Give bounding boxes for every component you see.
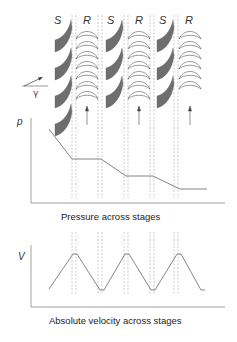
flow-arrow-icon — [38, 77, 43, 81]
pressure-plot: p Pressure across stages — [16, 116, 225, 222]
rotor-blade — [76, 42, 98, 50]
rotor-blade — [128, 32, 150, 40]
pressure-axis-label: p — [16, 116, 23, 127]
stage-boundaries — [72, 15, 178, 295]
rotor-blade — [128, 72, 150, 80]
rotor-blade — [76, 92, 98, 100]
rotor-blade — [128, 42, 150, 50]
rotor-blade — [76, 32, 98, 40]
stator-row-2 — [106, 20, 123, 108]
flow-arrow-icon — [24, 78, 41, 86]
rotor-row-3 — [179, 32, 201, 90]
rotor-label-3: R — [185, 14, 193, 26]
arrow-up-icon — [138, 106, 141, 111]
arrow-up-icon — [189, 106, 192, 111]
stator-label-1: S — [54, 14, 62, 26]
stator-blade — [157, 48, 174, 80]
rotor-row-2 — [128, 32, 150, 100]
gamma-label: γ — [33, 88, 39, 98]
stator-blade — [55, 48, 72, 80]
stator-blade — [55, 104, 72, 136]
stator-row-1 — [55, 20, 72, 136]
rotor-motion-arrows — [86, 106, 192, 125]
rotor-blade — [76, 62, 98, 70]
stator-row-3 — [157, 20, 174, 108]
stator-blade — [106, 48, 123, 80]
rotor-blade — [76, 52, 98, 60]
stator-blade — [106, 76, 123, 108]
rotor-label-2: R — [135, 14, 143, 26]
rotor-blade — [179, 42, 201, 50]
velocity-axis-label: V — [18, 251, 26, 262]
rotor-blade — [128, 82, 150, 90]
rotor-blade — [76, 72, 98, 80]
rotor-blade — [128, 62, 150, 70]
rotor-blade — [128, 52, 150, 60]
turbine-stage-diagram: S R S R S R — [0, 0, 237, 342]
rotor-blade — [179, 52, 201, 60]
velocity-caption: Absolute velocity across stages — [49, 315, 182, 326]
rotor-blade — [128, 92, 150, 100]
rotor-blade — [179, 82, 201, 90]
rotor-blade — [179, 72, 201, 80]
stator-label-2: S — [107, 14, 115, 26]
rotor-blade — [76, 82, 98, 90]
rotor-label-1: R — [83, 14, 91, 26]
pressure-caption: Pressure across stages — [61, 211, 161, 222]
stator-blade — [55, 76, 72, 108]
stator-blade — [157, 76, 174, 108]
velocity-curve — [49, 254, 205, 290]
flow-angle-indicator: γ — [22, 77, 48, 98]
rotor-blade — [179, 62, 201, 70]
rotor-blade — [179, 32, 201, 40]
stator-label-3: S — [159, 14, 167, 26]
rotor-row-1 — [76, 32, 98, 100]
arrow-up-icon — [86, 106, 89, 111]
velocity-plot: V Absolute velocity across stages — [18, 245, 225, 326]
